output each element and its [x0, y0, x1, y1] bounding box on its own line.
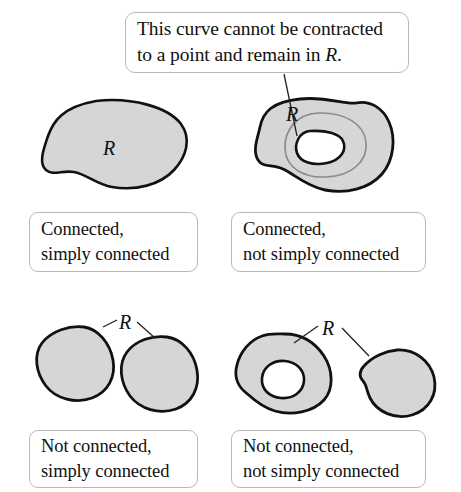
region-label-bottom-right: R — [322, 318, 334, 338]
caption-line-1: Connected, — [243, 217, 415, 242]
leader-line-bottom-right-b — [342, 328, 369, 356]
caption-line-2: not simply connected — [243, 459, 415, 484]
region-label-top-right: R — [286, 104, 298, 124]
callout-region-symbol: R — [325, 44, 337, 65]
region-hole-top-right — [296, 131, 344, 164]
caption-line-2: not simply connected — [243, 242, 415, 267]
leader-line-bottom-left-b — [137, 322, 155, 338]
caption-box-top-left: Connected, simply connected — [29, 212, 198, 272]
caption-line-1: Not connected, — [243, 434, 415, 459]
region-blob-bottom-left-b — [121, 337, 197, 412]
region-blob-bottom-right-b — [360, 350, 435, 417]
callout-line-2: to a point and remain in R. — [137, 42, 397, 68]
region-label-bottom-left: R — [119, 312, 131, 332]
callout-box: This curve cannot be contracted to a poi… — [125, 12, 409, 73]
callout-line-2-period: . — [337, 44, 342, 65]
leader-line-bottom-left-a — [103, 320, 117, 327]
callout-line-1: This curve cannot be contracted — [137, 16, 397, 42]
region-label-top-left: R — [103, 138, 115, 158]
caption-box-bottom-left: Not connected, simply connected — [29, 430, 198, 488]
caption-line-2: simply connected — [41, 242, 187, 267]
region-hole-bottom-right — [262, 361, 304, 398]
caption-box-top-right: Connected, not simply connected — [231, 212, 426, 272]
caption-box-bottom-right: Not connected, not simply connected — [231, 430, 426, 488]
region-blob-bottom-left-a — [37, 327, 114, 401]
caption-line-1: Connected, — [41, 217, 187, 242]
callout-line-2-text: to a point and remain in — [137, 44, 325, 65]
caption-line-1: Not connected, — [41, 434, 187, 459]
caption-line-2: simply connected — [41, 459, 187, 484]
